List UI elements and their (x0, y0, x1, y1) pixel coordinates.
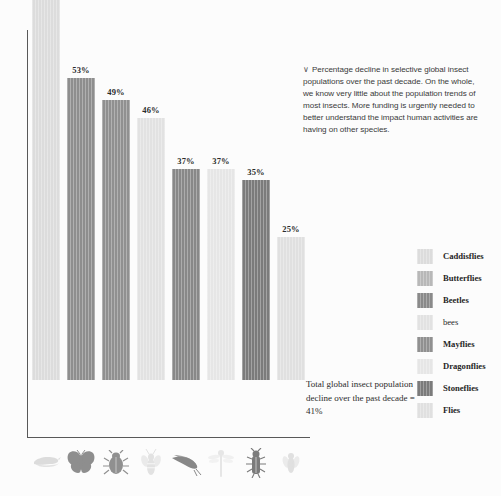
bar-value-label: 25% (271, 224, 311, 234)
bar[interactable] (67, 78, 95, 380)
plot-area: 68%53%49%46%37%37%35%25% (0, 0, 320, 445)
legend-item-mayflies[interactable]: Mayflies (417, 333, 501, 355)
legend-swatch (417, 403, 433, 418)
legend-swatch (417, 337, 433, 352)
caddisfly-icon (29, 441, 63, 485)
mayfly-icon (169, 441, 203, 485)
bar-value-label: 53% (61, 65, 101, 75)
legend-item-dragonflies[interactable]: Dragonflies (417, 355, 501, 377)
legend-label: Mayflies (443, 339, 475, 349)
legend-item-flies[interactable]: Flies (417, 399, 501, 421)
bar-series: 68%53%49%46%37%37%35%25% (0, 0, 320, 438)
legend-swatch (417, 293, 433, 308)
legend-label: Flies (443, 405, 460, 415)
legend-label: Beetles (443, 295, 469, 305)
legend-swatch (417, 249, 433, 264)
total-decline-note: Total global insect population decline o… (306, 378, 416, 419)
chevron-down-icon: ∨ (303, 64, 309, 76)
bar[interactable] (207, 169, 235, 380)
insect-icon-row (0, 441, 320, 487)
bar[interactable] (242, 180, 270, 380)
legend-swatch (417, 271, 433, 286)
stonefly-icon (239, 441, 273, 485)
legend-label: Butterflies (443, 273, 482, 283)
chart-canvas: 68%53%49%46%37%37%35%25% ∨Percentage dec… (0, 0, 501, 496)
beetle-icon (99, 441, 133, 485)
legend-label: Stoneflies (443, 383, 478, 393)
legend-item-caddisflies[interactable]: Caddisflies (417, 245, 501, 267)
legend-item-beetles[interactable]: Beetles (417, 289, 501, 311)
bar[interactable] (277, 237, 305, 380)
bar-value-label: 37% (166, 156, 206, 166)
legend-swatch (417, 381, 433, 396)
legend-item-stoneflies[interactable]: Stoneflies (417, 377, 501, 399)
description-body: Percentage decline in selective global i… (303, 65, 478, 134)
bar[interactable] (32, 0, 60, 380)
legend-item-butterflies[interactable]: Butterflies (417, 267, 501, 289)
legend-item-bees[interactable]: bees (417, 311, 501, 333)
legend-label: Caddisflies (443, 251, 484, 261)
butterfly-icon (64, 441, 98, 485)
legend-swatch (417, 359, 433, 374)
legend-label: Dragonflies (443, 361, 486, 371)
bee-icon (134, 441, 168, 485)
bar[interactable] (172, 169, 200, 380)
bar[interactable] (137, 118, 165, 380)
bar-value-label: 37% (201, 156, 241, 166)
description-text: ∨Percentage decline in selective global … (303, 64, 481, 135)
bar-value-label: 35% (236, 167, 276, 177)
legend: CaddisfliesButterfliesBeetlesbeesMayflie… (417, 245, 501, 421)
legend-swatch (417, 315, 433, 330)
fly-icon (274, 441, 308, 485)
bar-value-label: 46% (131, 105, 171, 115)
bar-value-label: 49% (96, 87, 136, 97)
bar[interactable] (102, 100, 130, 380)
dragonfly-icon (204, 441, 238, 485)
legend-label: bees (443, 317, 458, 327)
